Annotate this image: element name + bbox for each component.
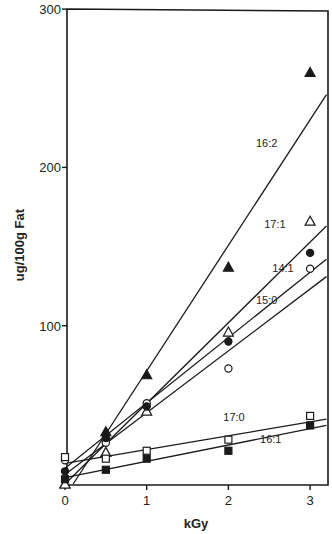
data-point-17-0 bbox=[102, 455, 109, 462]
x-tick-label: 1 bbox=[143, 493, 150, 508]
chart-canvas: 100200300 0123 16:217:114:115:017:016:1 … bbox=[0, 0, 332, 534]
x-tick-label: 0 bbox=[61, 493, 68, 508]
data-point-17-0 bbox=[225, 436, 232, 443]
series-label-17-1: 17:1 bbox=[264, 218, 285, 230]
series-labels: 16:217:114:115:017:016:1 bbox=[223, 137, 293, 445]
series-label-16-2: 16:2 bbox=[256, 137, 277, 149]
series-label-16-1: 16:1 bbox=[260, 433, 281, 445]
data-point-14-1 bbox=[307, 265, 314, 272]
data-point-15-0 bbox=[307, 249, 314, 256]
x-tick-label: 3 bbox=[306, 493, 313, 508]
y-axis-ticks: 100200300 bbox=[39, 2, 67, 334]
data-point-15-0 bbox=[102, 434, 109, 441]
data-point-17-1 bbox=[223, 327, 233, 336]
data-point-16-1 bbox=[307, 422, 314, 429]
data-point-16-2 bbox=[142, 370, 152, 379]
data-point-17-1 bbox=[305, 216, 315, 225]
data-point-15-0 bbox=[225, 338, 232, 345]
data-point-15-0 bbox=[61, 468, 68, 475]
series-label-17-0: 17:0 bbox=[223, 411, 244, 423]
data-point-16-1 bbox=[225, 447, 232, 454]
series-label-14-1: 14:1 bbox=[272, 262, 293, 274]
data-point-15-0 bbox=[143, 403, 150, 410]
fit-lines bbox=[65, 95, 326, 484]
y-tick-label: 300 bbox=[39, 2, 61, 17]
data-point-16-1 bbox=[102, 466, 109, 473]
x-axis-ticks: 0123 bbox=[61, 485, 313, 508]
data-points bbox=[60, 67, 315, 488]
data-point-16-1 bbox=[143, 455, 150, 462]
data-point-14-1 bbox=[225, 365, 232, 372]
data-point-17-0 bbox=[62, 454, 69, 461]
x-tick-label: 2 bbox=[225, 493, 232, 508]
plot-border bbox=[67, 9, 328, 485]
plot-frame bbox=[67, 9, 328, 485]
y-axis-title: ug/100g Fat bbox=[12, 208, 27, 281]
y-tick-label: 200 bbox=[39, 160, 61, 175]
series-label-15-0: 15:0 bbox=[256, 294, 277, 306]
data-point-17-0 bbox=[143, 447, 150, 454]
data-point-17-0 bbox=[307, 412, 314, 419]
y-tick-label: 100 bbox=[39, 319, 61, 334]
data-point-16-2 bbox=[223, 262, 233, 271]
data-point-16-2 bbox=[305, 67, 315, 76]
data-point-16-1 bbox=[62, 476, 69, 483]
x-axis-title: kGy bbox=[184, 516, 209, 531]
